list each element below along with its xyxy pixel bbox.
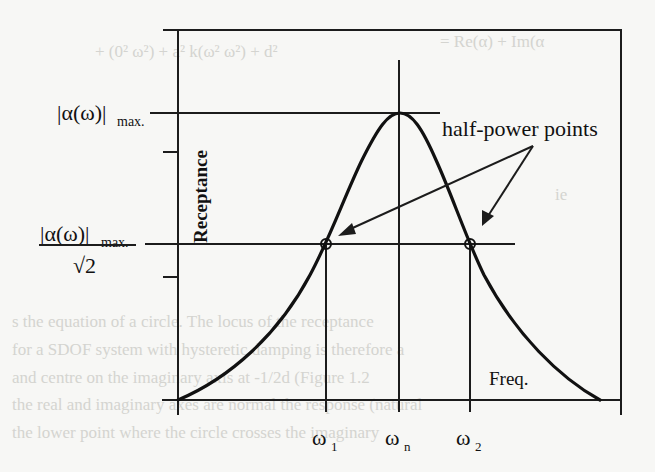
svg-text:max.: max. <box>101 235 129 250</box>
arrowhead-icon <box>482 210 494 226</box>
svg-text:|α(ω)|: |α(ω)| <box>40 221 89 246</box>
max-amplitude-label: |α(ω)| max. <box>57 100 145 129</box>
half-power-points-annotation: half-power points <box>442 116 598 141</box>
svg-text:2: 2 <box>475 439 482 454</box>
svg-text:for a SDOF system with hystere: for a SDOF system with hysteretic dampin… <box>12 340 405 359</box>
svg-text:ie: ie <box>555 185 567 204</box>
y-axis-label: Receptance <box>190 150 211 243</box>
svg-text:n: n <box>404 439 411 454</box>
svg-text:the real and imaginary axes ar: the real and imaginary axes are normal t… <box>12 395 422 414</box>
svg-text:1: 1 <box>331 439 338 454</box>
svg-text:ω: ω <box>312 425 326 450</box>
x-axis-label: Freq. <box>489 368 529 389</box>
svg-text:s the equation of a circle. Th: s the equation of a circle. The locus of… <box>12 312 374 331</box>
svg-text:and centre on the imaginary ax: and centre on the imaginary axis at -1/2… <box>12 368 370 387</box>
arrowhead-icon <box>338 223 356 236</box>
svg-text:max.: max. <box>117 114 145 129</box>
x-tick-label-omega-n: ω n <box>385 425 411 454</box>
half-power-amplitude-label: |α(ω)| max. √2 <box>39 221 136 278</box>
background-bleed-text: + (0² ω²) + a² k(ω² ω²) + d² = Re(α) + I… <box>12 32 567 442</box>
receptance-diagram: + (0² ω²) + a² k(ω² ω²) + d² = Re(α) + I… <box>0 0 655 472</box>
svg-text:+ (0² ω²) + a² k(ω² ω²) + d²: + (0² ω²) + a² k(ω² ω²) + d² <box>95 42 278 61</box>
x-tick-label-omega-2: ω 2 <box>456 425 482 454</box>
svg-text:= Re(α) + Im(α: = Re(α) + Im(α <box>440 32 545 51</box>
svg-text:|α(ω)|: |α(ω)| <box>57 100 106 125</box>
svg-text:√2: √2 <box>73 253 96 278</box>
svg-text:ω: ω <box>385 425 399 450</box>
svg-text:ω: ω <box>456 425 470 450</box>
